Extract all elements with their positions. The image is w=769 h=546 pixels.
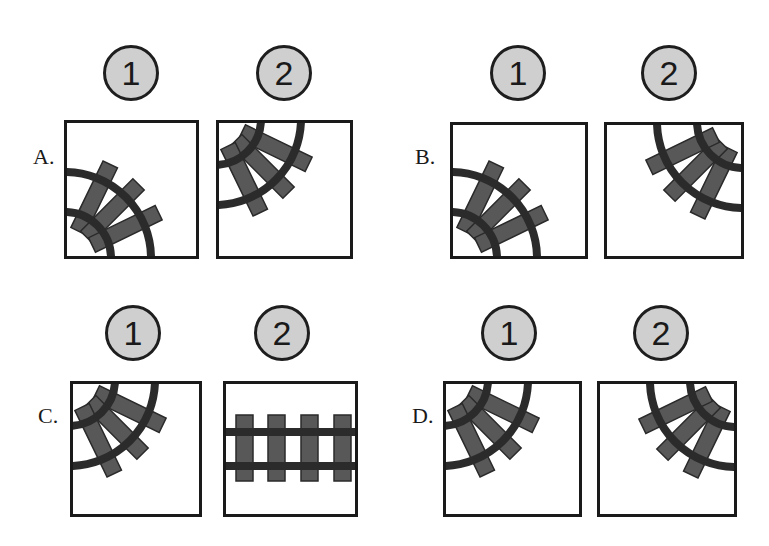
track-icon: [219, 123, 350, 256]
track-tile-c2: [223, 381, 358, 517]
track-icon: [453, 125, 585, 256]
track-icon: [446, 384, 579, 514]
track-tile-a1: [64, 120, 199, 259]
track-tile-b1: [450, 122, 588, 259]
track-tile-c1: [70, 381, 202, 517]
option-label-a: A.: [33, 146, 54, 168]
tile-number-badge: 1: [490, 45, 546, 101]
track-icon: [67, 123, 196, 256]
track-tile-b2: [604, 122, 744, 259]
track-icon: [226, 384, 355, 514]
tile-number-badge: 1: [481, 305, 537, 361]
tile-number-badge: 2: [641, 45, 697, 101]
option-label-c: C.: [38, 405, 58, 427]
track-icon: [73, 384, 199, 514]
track-icon: [607, 125, 741, 256]
tile-number-badge: 2: [254, 305, 310, 361]
track-tile-d1: [443, 381, 582, 517]
track-tile-d2: [597, 381, 737, 517]
tile-number-badge: 2: [633, 305, 689, 361]
option-label-d: D.: [412, 405, 433, 427]
track-tile-a2: [216, 120, 353, 259]
track-icon: [600, 384, 734, 514]
tile-number-badge: 1: [103, 45, 159, 101]
option-label-b: B.: [415, 146, 435, 168]
tile-number-badge: 1: [105, 305, 161, 361]
tile-number-badge: 2: [256, 45, 312, 101]
